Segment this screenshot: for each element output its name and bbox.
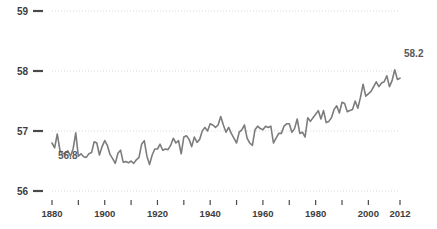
x-axis-label-2012: 2012 [389,208,410,219]
y-axis-label-57: 57 [17,126,29,137]
chart-page: 59585756 1880190019201940196019802000201… [0,0,437,229]
series-line-0 [52,70,400,165]
annotation-58.2: 58.2 [404,48,424,59]
y-axis-label-58: 58 [17,66,29,77]
x-axis-label-1920: 1920 [147,208,168,219]
gridlines [52,11,400,191]
x-axis-label-1940: 1940 [200,208,221,219]
x-axis-label-2000: 2000 [358,208,379,219]
x-axis-label-1960: 1960 [252,208,273,219]
x-axis-label-1900: 1900 [94,208,115,219]
annotation-56.8: 56.8 [58,150,78,161]
x-axis-labels: 18801900192019401960198020002012 [41,208,410,219]
y-axis-tick-marks [33,11,43,191]
y-axis-label-59: 59 [17,6,29,17]
x-axis-tick-marks [52,200,400,205]
x-axis-label-1980: 1980 [305,208,326,219]
y-axis-label-56: 56 [17,186,29,197]
x-axis-label-1880: 1880 [41,208,62,219]
value-annotations: 56.858.2 [58,48,424,161]
y-axis-labels: 59585756 [17,6,29,197]
temperature-line-chart: 59585756 1880190019201940196019802000201… [0,0,437,229]
data-series [52,70,400,165]
